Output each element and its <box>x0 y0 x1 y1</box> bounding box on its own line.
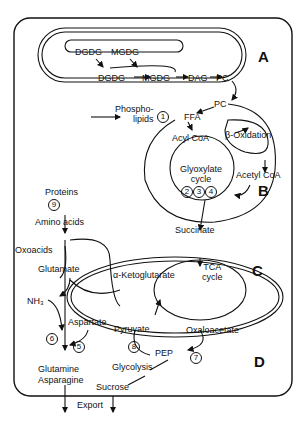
label-pyruvate: Pyruvate <box>114 324 150 334</box>
label-glutamate: Glutamate <box>38 264 80 274</box>
label-pc-a: PC <box>216 73 229 83</box>
step-4: 4 <box>205 186 217 198</box>
step-7: 7 <box>190 352 202 364</box>
label-mgdg-mid: MGDG <box>142 73 170 83</box>
label-beta-oxidation: β-Oxidation <box>225 130 271 140</box>
step-8: 8 <box>128 341 140 353</box>
label-aspartate: Aspartate <box>68 317 107 327</box>
step-5: 5 <box>73 341 85 353</box>
label-acyl-coa: Acyl CoA <box>172 133 209 143</box>
label-dgdg-mid: DGDG <box>98 73 125 83</box>
step-2: 2 <box>181 186 193 198</box>
label-ffa: FFA <box>184 112 201 122</box>
label-succinate: Succinate <box>175 225 215 235</box>
label-glycolysis: Glycolysis <box>112 362 153 372</box>
label-proteins: Proteins <box>45 187 78 197</box>
step-1: 1 <box>157 111 169 123</box>
label-glutamine: Glutamine <box>38 364 79 374</box>
label-sucrose: Sucrose <box>96 382 129 392</box>
label-asparagine: Asparagine <box>38 375 84 385</box>
label-phospholipids: Phospho- lipids <box>115 104 154 124</box>
label-nh3: NH₃ <box>27 296 44 306</box>
step-3: 3 <box>193 186 205 198</box>
compartment-a-label: A <box>258 48 269 65</box>
compartment-c-label: C <box>252 262 263 279</box>
label-dag: DAG <box>188 73 208 83</box>
label-glyoxylate-cycle: Glyoxylate cycle <box>180 164 222 184</box>
step-9: 9 <box>48 199 60 211</box>
label-tca-cycle: TCA cycle <box>202 262 223 282</box>
compartment-b-label: B <box>258 182 269 199</box>
label-oxaloacetate: Oxaloacetate <box>186 325 239 335</box>
label-export: Export <box>77 400 103 410</box>
label-pc-b: PC <box>214 99 227 109</box>
label-pep: PEP <box>155 348 173 358</box>
label-a-ketoglutarate: α-Ketoglutarate <box>113 270 175 280</box>
label-mgdg-top: MGDG <box>111 47 139 57</box>
label-acetyl-coa: Acetyl CoA <box>236 170 281 180</box>
label-oxoacids: Oxoacids <box>15 245 53 255</box>
label-dgdg-top: DGDG <box>75 47 102 57</box>
step-6: 6 <box>46 333 58 345</box>
label-amino-acids: Amino acids <box>35 217 84 227</box>
compartment-d-label: D <box>254 353 265 370</box>
